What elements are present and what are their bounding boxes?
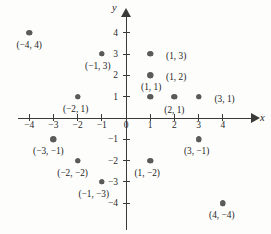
data-point-label: (−2, 1) bbox=[63, 104, 88, 114]
x-tick-label: 2 bbox=[172, 120, 177, 130]
data-point-label: (2, 1) bbox=[164, 105, 184, 115]
data-point bbox=[220, 200, 225, 205]
data-point-label: (−1, −3) bbox=[78, 189, 109, 199]
y-tick-mark bbox=[123, 160, 130, 161]
data-point bbox=[196, 137, 201, 142]
data-point bbox=[75, 94, 80, 99]
data-point bbox=[147, 73, 152, 78]
y-tick-mark bbox=[123, 54, 130, 55]
data-point-label: (−1, 3) bbox=[85, 61, 110, 71]
y-tick-label: −2 bbox=[96, 156, 118, 166]
data-point bbox=[147, 94, 152, 99]
y-tick-mark bbox=[123, 181, 130, 182]
x-tick-label: 1 bbox=[148, 120, 153, 130]
data-point-label: (1, 3) bbox=[166, 51, 186, 61]
data-point bbox=[26, 30, 31, 35]
data-point-label: (−2, −2) bbox=[57, 168, 88, 178]
y-tick-label: −1 bbox=[96, 134, 118, 144]
y-tick-label: 2 bbox=[96, 70, 118, 80]
y-tick-mark bbox=[123, 96, 130, 97]
y-tick-label: −4 bbox=[96, 198, 118, 208]
data-point-label: (3, −1) bbox=[184, 146, 209, 156]
data-point bbox=[75, 158, 80, 163]
x-tick-label: −1 bbox=[97, 120, 107, 130]
x-tick-label: −3 bbox=[48, 120, 58, 130]
x-tick-label: −2 bbox=[73, 120, 83, 130]
data-point-label: (1, 1) bbox=[141, 82, 161, 92]
x-axis-label: x bbox=[260, 112, 265, 123]
y-tick-label: 1 bbox=[96, 92, 118, 102]
data-point-label: (−3, −1) bbox=[33, 146, 64, 156]
y-tick-mark bbox=[123, 139, 130, 140]
y-axis-arrowhead bbox=[121, 8, 131, 17]
data-point bbox=[51, 137, 56, 142]
y-tick-mark bbox=[123, 32, 130, 33]
x-tick-label: 3 bbox=[196, 120, 201, 130]
x-tick-label: −4 bbox=[24, 120, 34, 130]
data-point bbox=[147, 51, 152, 56]
data-point-label: (3, 1) bbox=[215, 94, 235, 104]
y-tick-mark bbox=[123, 75, 130, 76]
data-point-label: (−4, 4) bbox=[16, 40, 41, 50]
y-tick-label: 4 bbox=[96, 28, 118, 38]
x-tick-label: 4 bbox=[220, 120, 225, 130]
y-axis-label: y bbox=[112, 2, 117, 13]
data-point-label: (1, 2) bbox=[166, 72, 186, 82]
coordinate-plane-chart: x y −4−3−2−1012344321−1−2−3−4 (−4, 4)(−1… bbox=[0, 0, 271, 234]
y-tick-mark bbox=[123, 203, 130, 204]
data-point bbox=[172, 94, 177, 99]
x-axis-arrowhead bbox=[251, 113, 260, 123]
data-point bbox=[196, 94, 201, 99]
x-tick-label: 0 bbox=[124, 120, 129, 130]
data-point-label: (1, −2) bbox=[134, 168, 159, 178]
data-point-label: (4, −4) bbox=[209, 210, 234, 220]
data-point bbox=[147, 158, 152, 163]
